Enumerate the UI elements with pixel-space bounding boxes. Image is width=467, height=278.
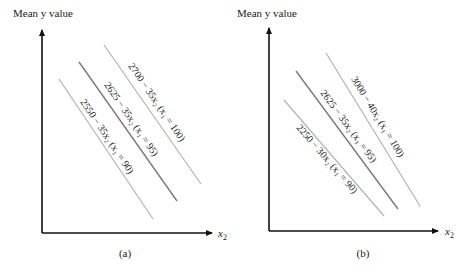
x-axis-label: x2 — [217, 227, 227, 242]
x-axis-label: x2 — [444, 225, 454, 240]
panel-caption: (a) — [119, 247, 132, 260]
panel-a: Mean y value x2 2700 − 35x₂ (x₁ = 100) 2… — [13, 7, 227, 260]
panel-b: Mean y value x2 3000 − 40x₂ (x₁ = 100) 2… — [237, 7, 454, 260]
y-axis-label: Mean y value — [13, 7, 73, 19]
interaction-diagram: Mean y value x2 2700 − 35x₂ (x₁ = 100) 2… — [0, 0, 467, 278]
panel-caption: (b) — [357, 247, 370, 260]
line-x1-100 — [104, 45, 201, 184]
y-axis-label: Mean y value — [237, 7, 297, 19]
